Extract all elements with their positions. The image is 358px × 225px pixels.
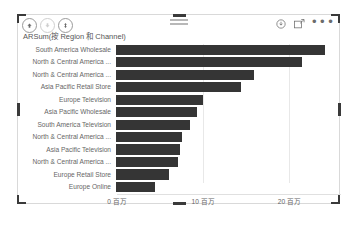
bar-row[interactable]: North & Central America ...	[18, 156, 341, 167]
bar-row[interactable]: Europe Retail Store	[18, 169, 341, 180]
bar[interactable]	[116, 120, 190, 130]
x-axis-tick-label: 10 百万	[192, 196, 215, 206]
bar-track	[116, 106, 341, 117]
plot-area[interactable]: South America WholesaleNorth & Central A…	[18, 44, 341, 205]
bar[interactable]	[116, 107, 197, 117]
page-title: ARSum(按 Region 和 Channel)	[23, 30, 126, 41]
bar-track	[116, 56, 341, 67]
resize-handle-left[interactable]	[17, 103, 20, 116]
x-axis-tick-labels: 0 百万10 百万20 百万	[117, 196, 341, 208]
resize-handle-bottom-right[interactable]	[331, 195, 340, 204]
bar-category-label: North & Central America ...	[18, 131, 116, 142]
x-axis-tick-label: 20 百万	[278, 196, 301, 206]
bar-row[interactable]: Asia Pacific Wholesale	[18, 106, 341, 117]
resize-handle-right[interactable]	[338, 103, 341, 116]
bar[interactable]	[116, 57, 302, 67]
bar-category-label: Asia Pacific Retail Store	[18, 81, 116, 92]
bar-track	[116, 131, 341, 142]
bar-category-label: Asia Pacific Television	[18, 144, 116, 155]
bar-category-label: Asia Pacific Wholesale	[18, 106, 116, 117]
bar-category-label: Europe Retail Store	[18, 169, 116, 180]
bar-row[interactable]: North & Central America ...	[18, 56, 341, 67]
visual-actions-group: •••	[275, 18, 335, 30]
bar-category-label: North & Central America ...	[18, 69, 116, 80]
bar-track	[116, 144, 341, 155]
x-axis-line	[117, 194, 341, 195]
bar-track	[116, 81, 341, 92]
bar-row[interactable]: South America Television	[18, 119, 341, 130]
bar[interactable]	[116, 144, 180, 154]
bar-track	[116, 181, 341, 192]
bar-row[interactable]: North & Central America ...	[18, 69, 341, 80]
resize-handle-bottom-left[interactable]	[17, 195, 26, 204]
bar[interactable]	[116, 70, 254, 80]
bar-track	[116, 169, 341, 180]
bar[interactable]	[116, 132, 182, 142]
bar[interactable]	[116, 182, 155, 192]
bar[interactable]	[116, 45, 325, 55]
bar-row[interactable]: Asia Pacific Television	[18, 144, 341, 155]
bar-track	[116, 156, 341, 167]
bar[interactable]	[116, 82, 241, 92]
bar-rows: South America WholesaleNorth & Central A…	[18, 44, 341, 194]
resize-handle-top-left[interactable]	[17, 14, 26, 23]
bar-row[interactable]: Europe Online	[18, 181, 341, 192]
filter-icon[interactable]	[275, 18, 288, 30]
bar-category-label: Europe Online	[18, 181, 116, 192]
bar-category-label: Europe Television	[18, 94, 116, 105]
resize-handle-top-right[interactable]	[331, 14, 340, 23]
bar-track	[116, 44, 341, 55]
x-axis-tick-label: 0 百万	[107, 196, 127, 206]
bar-row[interactable]: South America Wholesale	[18, 44, 341, 55]
bar-track	[116, 69, 341, 80]
bar-row[interactable]: Europe Television	[18, 94, 341, 105]
focus-mode-icon[interactable]	[293, 18, 306, 30]
resize-handle-top[interactable]	[173, 14, 186, 17]
bar-row[interactable]: North & Central America ...	[18, 131, 341, 142]
bar[interactable]	[116, 169, 169, 179]
bar-row[interactable]: Asia Pacific Retail Store	[18, 81, 341, 92]
bar-track	[116, 94, 341, 105]
bar-category-label: North & Central America ...	[18, 156, 116, 167]
resize-handle-bottom[interactable]	[173, 202, 186, 205]
bar-track	[116, 119, 341, 130]
drag-handle-icon[interactable]	[170, 17, 188, 27]
bar[interactable]	[116, 95, 203, 105]
bar-category-label: South America Television	[18, 119, 116, 130]
chart-visual-container[interactable]: ••• ARSum(按 Region 和 Channel) South Amer…	[17, 14, 340, 204]
bar-category-label: South America Wholesale	[18, 44, 116, 55]
bar[interactable]	[116, 157, 178, 167]
bar-category-label: North & Central America ...	[18, 56, 116, 67]
